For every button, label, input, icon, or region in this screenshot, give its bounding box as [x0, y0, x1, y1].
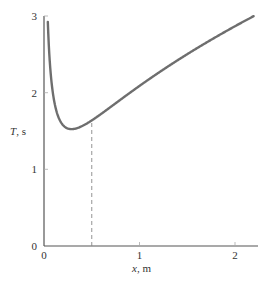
y-axis-label: T, s — [10, 125, 26, 137]
chart: 0 1 2 3 0 1 2 T, s x, m — [0, 0, 267, 282]
y-tick-label-3: 3 — [32, 10, 38, 22]
x-tick-label-2: 2 — [232, 249, 238, 261]
period-curve — [48, 16, 254, 129]
y-tick-label-0: 0 — [32, 240, 38, 252]
y-tick-label-2: 2 — [32, 87, 38, 99]
x-axis-label: x, m — [131, 262, 151, 274]
y-tick-label-1: 1 — [32, 163, 38, 175]
x-tick-label-0: 0 — [41, 249, 47, 261]
x-tick-label-1: 1 — [137, 249, 143, 261]
